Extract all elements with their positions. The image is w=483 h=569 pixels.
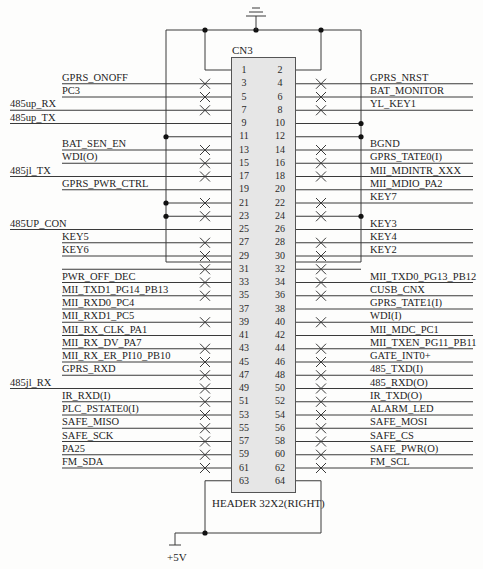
pin-number: 4 <box>270 77 290 88</box>
pin-number: 7 <box>234 104 254 115</box>
net-label: 485UP_CON <box>10 218 67 229</box>
net-label: MII_RX_ER_PI10_PB10 <box>62 350 171 361</box>
pin-number: 3 <box>234 77 254 88</box>
pin-number: 5 <box>234 91 254 102</box>
pin-number: 27 <box>234 236 254 247</box>
net-label: FM_SDA <box>62 456 103 467</box>
pin-number: 52 <box>270 395 290 406</box>
junction-dot <box>202 27 207 32</box>
net-label: IR_TXD(O) <box>370 390 422 401</box>
net-label: MII_MDIO_PA2 <box>370 178 443 189</box>
pin-number: 47 <box>234 369 254 380</box>
net-label: IR_RXD(I) <box>62 390 110 401</box>
net-label: CUSB_CNX <box>370 284 425 295</box>
net-label: MII_RX_DV_PA7 <box>62 337 142 348</box>
net-label: MII_TXD1_PG14_PB13 <box>62 284 168 295</box>
pin-number: 40 <box>270 316 290 327</box>
net-label: GPRS_ONOFF <box>62 72 128 83</box>
net-label: PC3 <box>62 85 80 96</box>
pin-number: 36 <box>270 289 290 300</box>
pin-number: 25 <box>234 223 254 234</box>
junction-dot <box>163 200 168 205</box>
net-label: 485jl_TX <box>10 165 51 176</box>
net-label: SAFE_SCK <box>62 430 113 441</box>
power-label: +5V <box>167 551 187 563</box>
pin-number: 35 <box>234 289 254 300</box>
pin-number: 16 <box>270 157 290 168</box>
net-label: GATE_INT0+ <box>370 350 431 361</box>
net-label: KEY4 <box>370 231 397 242</box>
pin-number: 17 <box>234 170 254 181</box>
pin-number: 18 <box>270 170 290 181</box>
pin-number: 57 <box>234 435 254 446</box>
pin-number: 15 <box>234 157 254 168</box>
net-label: MII_TXD0_PG13_PB12 <box>370 271 476 282</box>
pin-number: 63 <box>234 475 254 486</box>
net-label: 485up_RX <box>10 98 56 109</box>
pin-number: 31 <box>234 263 254 274</box>
net-label: KEY5 <box>62 231 89 242</box>
net-label: MII_MDINTR_XXX <box>370 165 461 176</box>
pin-number: 33 <box>234 276 254 287</box>
net-label: MII_RX_CLK_PA1 <box>62 324 147 335</box>
component-ref: CN3 <box>232 44 253 56</box>
pin-number: 23 <box>234 210 254 221</box>
pin-number: 45 <box>234 356 254 367</box>
net-label: YL_KEY1 <box>370 98 416 109</box>
net-label: 485up_TX <box>10 112 56 123</box>
pin-number: 54 <box>270 409 290 420</box>
pin-number: 50 <box>270 382 290 393</box>
net-label: SAFE_MISO <box>62 416 119 427</box>
pin-number: 41 <box>234 329 254 340</box>
net-label: 485jl_RX <box>10 377 51 388</box>
junction-dot <box>358 121 363 126</box>
net-label: PLC_PSTATE0(I) <box>62 403 139 414</box>
net-label: GPRS_RXD <box>62 363 116 374</box>
junction-dot <box>318 27 323 32</box>
pin-number: 22 <box>270 197 290 208</box>
net-label: MII_RXD0_PC4 <box>62 297 134 308</box>
pin-number: 11 <box>234 130 254 141</box>
net-label: WDI(O) <box>62 151 98 162</box>
net-label: PA25 <box>62 443 85 454</box>
pin-number: 29 <box>234 250 254 261</box>
pin-number: 34 <box>270 276 290 287</box>
net-label: SAFE_CS <box>370 430 414 441</box>
schematic-canvas: 1234GPRS_ONOFFGPRS_NRST56PC3BAT_MONITOR7… <box>0 0 483 569</box>
net-label: BGND <box>370 138 400 149</box>
net-label: KEY2 <box>370 244 397 255</box>
pin-number: 43 <box>234 342 254 353</box>
pin-number: 37 <box>234 303 254 314</box>
net-label: ALARM_LED <box>370 403 434 414</box>
junction-dot <box>358 134 363 139</box>
pin-number: 56 <box>270 422 290 433</box>
pin-number: 53 <box>234 409 254 420</box>
pin-number: 30 <box>270 250 290 261</box>
component-part: HEADER 32X2(RIGHT) <box>212 497 325 509</box>
net-label: KEY6 <box>62 244 89 255</box>
net-label: MII_MDC_PC1 <box>370 324 439 335</box>
net-label: GPRS_TATE1(I) <box>370 297 442 308</box>
pin-number: 6 <box>270 91 290 102</box>
net-label: BAT_MONITOR <box>370 85 444 96</box>
pin-number: 64 <box>270 475 290 486</box>
pin-number: 55 <box>234 422 254 433</box>
pin-number: 10 <box>270 117 290 128</box>
pin-number: 61 <box>234 462 254 473</box>
pin-number: 24 <box>270 210 290 221</box>
net-label: BAT_SEN_EN <box>62 138 126 149</box>
net-label: FM_SCL <box>370 456 410 467</box>
pin-number: 1 <box>234 64 254 75</box>
pin-number: 21 <box>234 197 254 208</box>
pin-number: 19 <box>234 183 254 194</box>
pin-number: 60 <box>270 448 290 459</box>
pin-number: 32 <box>270 263 290 274</box>
pin-number: 9 <box>234 117 254 128</box>
pin-number: 14 <box>270 144 290 155</box>
junction-dot <box>358 214 363 219</box>
junction-dot <box>202 530 207 535</box>
net-label: MII_RXD1_PC5 <box>62 310 134 321</box>
pin-number: 8 <box>270 104 290 115</box>
net-label: GPRS_PWR_CTRL <box>62 178 148 189</box>
pin-number: 48 <box>270 369 290 380</box>
